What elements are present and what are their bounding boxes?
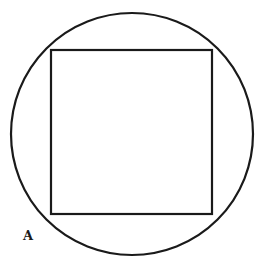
inscribed-square: [51, 50, 212, 214]
figure-canvas: [0, 0, 266, 268]
figure-label: A: [23, 228, 33, 243]
